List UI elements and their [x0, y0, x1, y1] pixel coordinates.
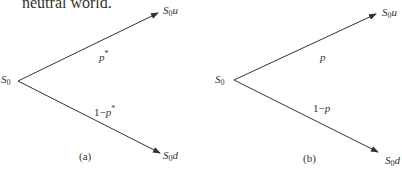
tree-b-root-label: S0	[215, 74, 225, 87]
tree-b-down-branch	[234, 80, 378, 152]
tree-a-down-node-label: S0d	[163, 150, 178, 163]
tree-a-up-branch	[18, 13, 158, 81]
tree-b-up-node-label: S0u	[382, 7, 397, 20]
binomial-trees	[0, 0, 402, 172]
tree-a-up-node-label: S0u	[163, 5, 178, 18]
tree-b-caption: (b)	[303, 153, 316, 164]
tree-a-down-branch	[18, 81, 160, 153]
tree-b-up-branch	[234, 14, 376, 80]
tree-a-down-probability: 1−p*	[94, 105, 115, 118]
tree-a-caption: (a)	[79, 151, 91, 162]
tree-b-down-node-label: S0d	[385, 155, 400, 168]
tree-b-up-probability: p	[320, 52, 326, 63]
tree-a-up-probability: p*	[99, 50, 109, 63]
tree-b-down-probability: 1−p	[313, 103, 330, 114]
tree-a-root-label: S0	[1, 74, 11, 87]
